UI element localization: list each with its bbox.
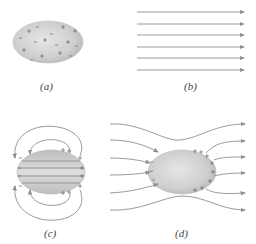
panel-d-label: (d) (175, 227, 188, 239)
panel-b-label: (b) (184, 80, 197, 92)
diagram-canvas (0, 0, 256, 244)
panel-a-label: (a) (40, 80, 53, 92)
panel-c-label: (c) (44, 227, 56, 239)
panel-c-induced-field (15, 126, 85, 220)
panel-b-uniform-field (137, 12, 244, 70)
panel-a-conductor (13, 21, 83, 63)
panel-d-net-field (110, 124, 245, 210)
